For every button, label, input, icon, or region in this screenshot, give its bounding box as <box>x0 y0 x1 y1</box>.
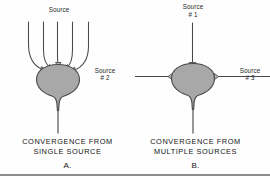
panel-b-multiple-sources: Source # 1 Source # 2 Source # 3 CONVERG… <box>135 0 270 176</box>
panel-a-letter: A. <box>0 161 135 170</box>
soma-cell-body <box>37 65 80 111</box>
panel-b-source-2-label-line2: # 2 <box>90 74 120 81</box>
soma-cell-body <box>172 64 215 110</box>
panel-b-source-3-label-line2: # 3 <box>235 74 265 81</box>
panel-b-caption-line2: MULTIPLE SOURCES <box>128 147 263 156</box>
panel-b-source-1-label-line2: # 1 <box>178 11 208 18</box>
panel-b-letter: B. <box>128 161 263 170</box>
panel-b-source-1-label-line1: Source <box>178 3 208 10</box>
dendrite-fiber-4 <box>67 22 73 68</box>
figure-root: Source CONVERGENCE FROM SINGLE SOURCE A. <box>0 0 270 176</box>
dendrite-fiber-1 <box>29 22 43 70</box>
panel-a-caption-line1: CONVERGENCE FROM <box>0 137 135 146</box>
bottom-divider-rule <box>0 174 270 176</box>
panel-a-source-label: Source <box>44 6 74 13</box>
panel-a-caption-line2: SINGLE SOURCE <box>0 147 135 156</box>
panel-a-single-source: Source CONVERGENCE FROM SINGLE SOURCE A. <box>0 0 135 176</box>
dendrite-fiber-2 <box>44 22 51 68</box>
panel-b-caption-line1: CONVERGENCE FROM <box>128 137 263 146</box>
panel-b-source-3-label-line1: Source <box>235 67 265 74</box>
dendrite-fiber-5 <box>74 22 89 71</box>
panel-b-source-2-label-line1: Source <box>90 67 120 74</box>
dendrite-fiber-3 <box>58 22 59 65</box>
